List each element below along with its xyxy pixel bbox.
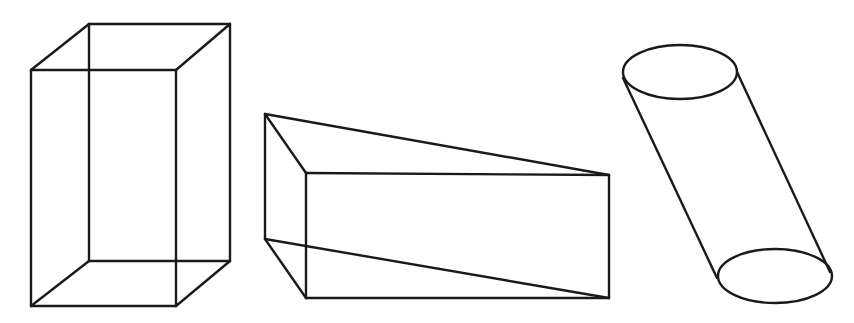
- rectangular-prism-edge: [31, 261, 89, 306]
- rectangular-prism-edge: [31, 24, 89, 70]
- geometric-solids-figure: [0, 0, 854, 323]
- cylinder-edge: [623, 78, 717, 278]
- triangular-prism-edge: [265, 239, 609, 298]
- cylinder-edge: [737, 72, 830, 272]
- figure-svg: [0, 0, 854, 323]
- triangular-prism: [265, 114, 609, 298]
- rectangular-prism: [31, 24, 230, 306]
- triangular-prism-edge: [265, 114, 306, 173]
- cylinder-bottom-face: [718, 249, 832, 303]
- triangular-prism-edge: [265, 239, 306, 298]
- cylinder-top-face: [623, 45, 737, 99]
- triangular-prism-edge: [306, 173, 609, 175]
- cylinder: [623, 45, 832, 303]
- triangular-prism-edge: [265, 114, 609, 175]
- rectangular-prism-edge: [176, 261, 230, 306]
- rectangular-prism-edge: [176, 24, 230, 70]
